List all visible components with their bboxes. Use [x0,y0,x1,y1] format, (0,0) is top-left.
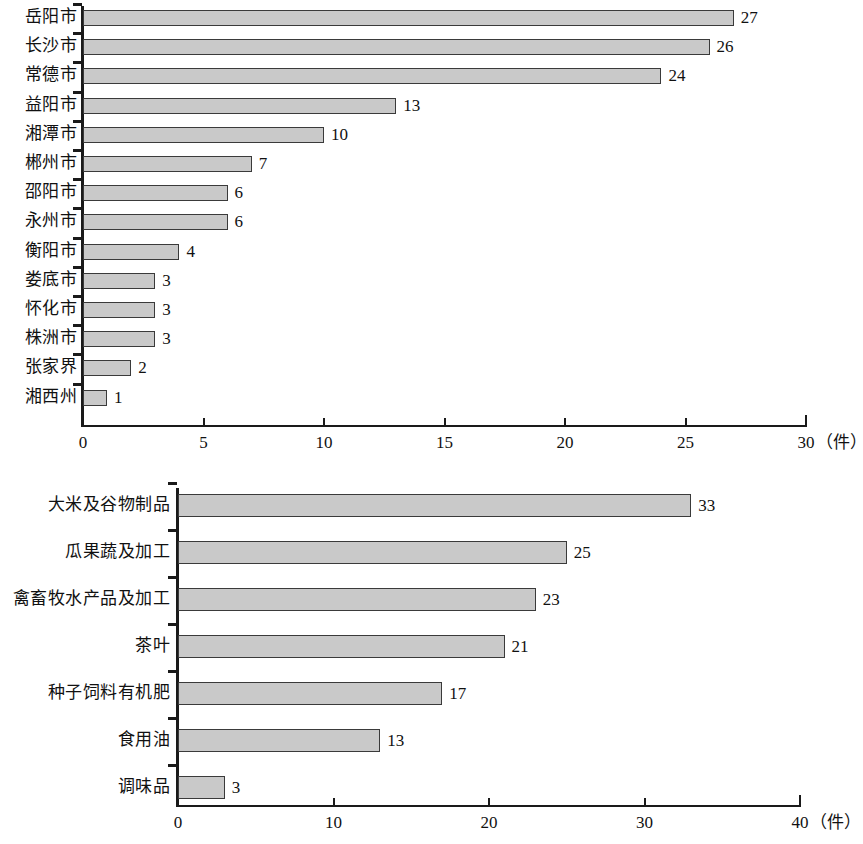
category-label: 调味品 [0,777,170,797]
bar-value-label: 2 [138,359,147,376]
x-axis-tick-label: 15 [415,433,475,453]
bar-value-label: 33 [698,497,715,514]
x-axis-tick [564,418,566,425]
bar-value-label: 17 [449,685,466,702]
category-label: 株洲市 [0,329,77,347]
x-axis-unit-label: （件） [816,433,863,453]
x-axis-unit-label: （件） [810,813,861,833]
category-label: 长沙市 [0,37,77,55]
y-axis-tick [168,670,177,673]
bar [83,244,179,260]
y-axis-tick [73,324,82,327]
bar [83,273,155,289]
bar [83,127,324,143]
category-label: 湘潭市 [0,125,77,143]
bar [83,10,734,26]
bar-value-label: 4 [186,243,195,260]
x-axis-line [81,425,806,427]
bar [83,39,710,55]
x-axis-tick-label: 20 [535,433,595,453]
x-axis-line [176,805,800,807]
y-axis-tick [168,764,177,767]
category-label: 岳阳市 [0,8,77,26]
y-axis-tick [73,32,82,35]
bar-value-label: 3 [232,779,241,796]
x-axis-tick-label: 20 [459,813,519,833]
category-label: 永州市 [0,212,77,230]
category-label: 禽畜牧水产品及加工 [0,589,170,609]
bar [83,360,131,376]
category-label: 大米及谷物制品 [0,495,170,515]
category-label: 益阳市 [0,96,77,114]
x-axis-tick [685,418,687,425]
bar-value-label: 6 [235,184,244,201]
y-axis-tick [73,353,82,356]
category-label: 湘西州 [0,388,77,406]
y-axis-tick [73,207,82,210]
bar-value-label: 1 [114,389,123,406]
category-label: 衡阳市 [0,242,77,260]
y-axis-tick [168,576,177,579]
x-axis-tick [444,418,446,425]
page-root: 27岳阳市26长沙市24常德市13益阳市10湘潭市7郴州市6邵阳市6永州市4衡阳… [0,0,863,844]
y-axis-tick [168,529,177,532]
bar [83,68,661,84]
category-label: 常德市 [0,66,77,84]
category-label: 瓜果蔬及加工 [0,542,170,562]
x-axis-tick [805,415,807,427]
y-axis-tick [73,120,82,123]
bar [83,98,396,114]
category-label: 种子饲料有机肥 [0,683,170,703]
bar-value-label: 13 [387,732,404,749]
y-axis-tick [73,149,82,152]
y-axis-tick [73,237,82,240]
bar [178,541,567,564]
x-axis-tick-label: 0 [148,813,208,833]
y-axis-tick [168,482,177,485]
x-axis-tick-label: 30 [615,813,675,833]
y-axis-tick [168,623,177,626]
category-label: 张家界 [0,358,77,376]
bar-value-label: 3 [162,330,171,347]
x-axis-tick-label: 10 [304,813,364,833]
bar [83,331,155,347]
category-label: 娄底市 [0,271,77,289]
bar-value-label: 27 [741,9,758,26]
bar-value-label: 13 [403,97,420,114]
category-label: 茶叶 [0,636,170,656]
bar [83,185,228,201]
y-axis-tick [73,383,82,386]
bar-value-label: 3 [162,272,171,289]
bar-value-label: 23 [543,591,560,608]
category-label: 邵阳市 [0,183,77,201]
bar-value-label: 24 [668,67,685,84]
x-axis-tick [644,798,646,805]
bar-value-label: 6 [235,213,244,230]
bar [178,729,380,752]
bar [178,776,225,799]
x-axis-tick [799,795,801,807]
bar [83,390,107,406]
bar [83,156,252,172]
category-label: 食用油 [0,730,170,750]
x-axis-tick [323,418,325,425]
bar [83,302,155,318]
y-axis-tick [73,295,82,298]
bar-value-label: 10 [331,126,348,143]
category-label: 郴州市 [0,154,77,172]
x-axis-tick-label: 10 [294,433,354,453]
bar-value-label: 3 [162,301,171,318]
bar [178,494,691,517]
x-axis-tick-label: 5 [174,433,234,453]
y-axis-tick [73,91,82,94]
bar-value-label: 26 [717,38,734,55]
category-label: 怀化市 [0,300,77,318]
x-axis-tick [203,418,205,425]
bar [178,682,442,705]
x-axis-tick-label: 0 [53,433,113,453]
y-axis-tick [73,61,82,64]
bar [83,214,228,230]
bar-value-label: 7 [259,155,268,172]
bar [178,635,505,658]
y-axis-tick [168,717,177,720]
